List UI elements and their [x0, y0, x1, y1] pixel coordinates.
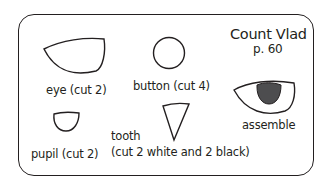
tooth-shape-icon [163, 103, 189, 140]
tooth-label: tooth [111, 130, 140, 143]
page-reference: p. 60 [253, 43, 283, 56]
pupil-shape-icon [54, 112, 79, 131]
pattern-title: Count Vlad [230, 26, 307, 42]
eye-shape-icon [44, 38, 105, 73]
button-label: button (cut 4) [133, 80, 210, 93]
assembled-eye-icon [234, 81, 295, 113]
assemble-label: assemble [242, 119, 295, 132]
button-shape-icon [154, 38, 185, 69]
pupil-label: pupil (cut 2) [31, 148, 98, 161]
eye-label: eye (cut 2) [46, 84, 106, 97]
tooth-cut-label: (cut 2 white and 2 black) [111, 146, 250, 159]
